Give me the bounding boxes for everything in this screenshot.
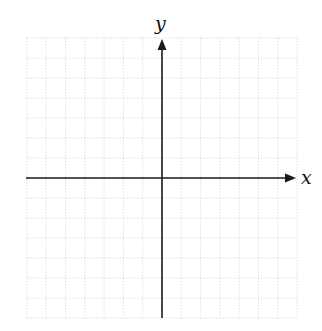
- coordinate-plane: x y: [0, 0, 322, 331]
- x-axis-arrow-icon: [285, 174, 296, 183]
- y-axis-label: y: [154, 12, 166, 34]
- x-axis-label: x: [301, 166, 312, 188]
- y-axis-arrow-icon: [158, 39, 167, 50]
